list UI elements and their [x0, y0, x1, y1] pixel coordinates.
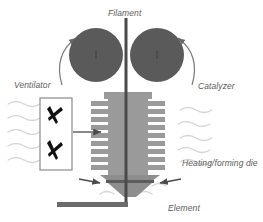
label-ventilator: Ventilator — [14, 80, 51, 90]
element-bar — [57, 202, 128, 207]
roller-left — [69, 28, 123, 82]
process-diagram: Filament Ventilator Catalyzer Heating/fo… — [0, 0, 263, 222]
ventilator-fan-box — [40, 98, 72, 170]
die-fins-left — [91, 101, 108, 170]
heating-forming-die — [91, 92, 165, 175]
airflow-waves-left — [8, 102, 40, 163]
label-filament: Filament — [108, 8, 141, 18]
die-fins-right — [148, 101, 165, 170]
airflow-waves-right — [178, 108, 212, 165]
diagram-canvas — [0, 0, 263, 222]
label-heating-forming-die: Heating/forming die — [182, 158, 258, 168]
roller-right — [130, 28, 184, 82]
label-element: Element — [168, 203, 200, 213]
label-catalyzer: Catalyzer — [198, 81, 235, 91]
